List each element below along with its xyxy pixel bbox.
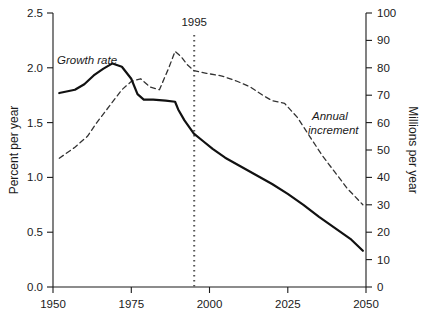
series-label-annual-increment-line1: Annual [311, 110, 348, 122]
right-axis-title: Millions per year [406, 106, 420, 193]
population-growth-chart: 2.5 2.0 1.5 1.0 0.5 0.0 100 90 80 70 60 [0, 0, 425, 320]
left-tick-label-2.5: 2.5 [27, 7, 43, 19]
right-tick-label-90: 90 [377, 34, 390, 46]
right-tick-label-10: 10 [377, 254, 390, 266]
chart-svg: 2.5 2.0 1.5 1.0 0.5 0.0 100 90 80 70 60 [0, 0, 425, 320]
right-tick-label-50: 50 [377, 144, 390, 156]
right-tick-label-30: 30 [377, 199, 390, 211]
series-label-growth-rate: Growth rate [57, 54, 117, 66]
bottom-axis-ticks: 1950 1975 2000 2025 2050 [40, 287, 379, 310]
left-tick-label-0.0: 0.0 [27, 281, 43, 293]
x-tick-label-1975: 1975 [119, 298, 145, 310]
right-tick-label-80: 80 [377, 62, 390, 74]
left-tick-label-1.5: 1.5 [27, 117, 43, 129]
right-axis-ticks: 100 90 80 70 60 50 40 30 20 10 0 [366, 7, 396, 293]
right-tick-label-20: 20 [377, 226, 390, 238]
x-tick-label-2000: 2000 [197, 298, 223, 310]
series-layer [59, 51, 363, 250]
left-axis-ticks: 2.5 2.0 1.5 1.0 0.5 0.0 [27, 7, 53, 293]
left-tick-label-0.5: 0.5 [27, 226, 43, 238]
left-axis-title: Percent per year [7, 106, 21, 195]
x-tick-label-2050: 2050 [353, 298, 379, 310]
series-label-annual-increment-line2: increment [308, 124, 359, 136]
left-tick-label-1.0: 1.0 [27, 171, 43, 183]
x-tick-label-1950: 1950 [40, 298, 66, 310]
left-tick-label-2.0: 2.0 [27, 62, 43, 74]
right-tick-label-100: 100 [377, 7, 396, 19]
series-line-growth-rate [59, 63, 363, 250]
right-tick-label-70: 70 [377, 89, 390, 101]
year-marker-label: 1995 [181, 16, 207, 28]
right-tick-label-40: 40 [377, 171, 390, 183]
right-tick-label-0: 0 [377, 281, 383, 293]
right-tick-label-60: 60 [377, 117, 390, 129]
year-marker-1995: 1995 [181, 16, 207, 287]
series-labels: Growth rate Annual increment [57, 54, 359, 136]
x-tick-label-2025: 2025 [275, 298, 301, 310]
